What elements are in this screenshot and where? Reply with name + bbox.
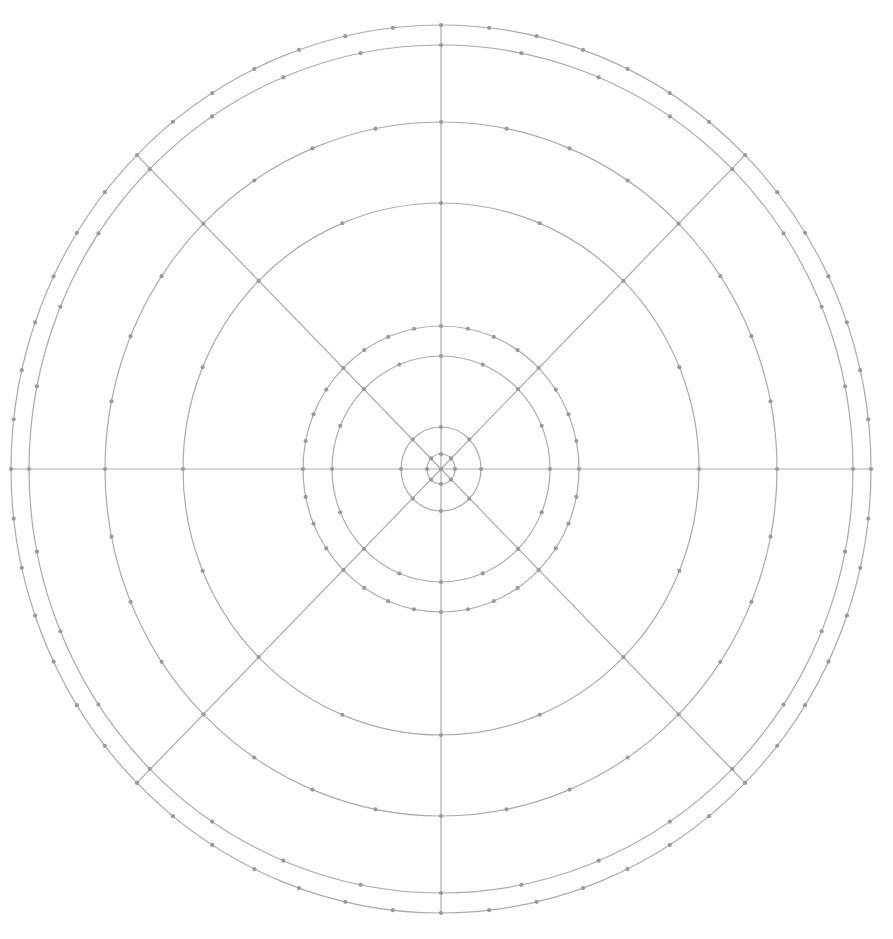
ring-dot [730,167,734,171]
ring-dot [538,221,542,225]
ring-dot [362,348,366,352]
ring-dot [540,424,544,428]
ring-dot [621,279,625,283]
ring-dot [340,221,344,225]
ring-dot [775,744,779,748]
ring-dot [304,439,308,443]
ring-dot [439,911,443,915]
ring-dot [466,327,470,331]
ring-dot [843,384,847,388]
ring-dot [201,222,205,226]
ring-dot [252,67,256,71]
ring-dot [492,599,496,603]
ring-dot [386,599,390,603]
ring-dot [439,425,443,429]
ring-dot [20,566,24,570]
ring-dot [707,120,711,124]
ring-dot [625,867,629,871]
ring-dot [412,607,416,611]
ring-dot [439,201,443,205]
ring-dot [697,467,701,471]
ring-dot [128,334,132,338]
ring-dot [304,495,308,499]
ring-dot [567,146,571,150]
ring-dot [425,467,429,471]
ring-dot [341,366,345,370]
ring-dot [439,23,443,27]
ring-dot [391,26,395,30]
ring-dot [171,814,175,818]
ring-dot [324,546,328,550]
ring-dot [768,399,772,403]
ring-dot [181,467,185,471]
ring-dot [359,51,363,55]
ring-dot [148,167,152,171]
ring-dot [210,114,214,118]
ring-dot [743,781,747,785]
ring-dot [504,807,508,811]
ring-dot [775,467,779,471]
ring-dot [310,787,314,791]
ring-dot [845,614,849,618]
ring-dot [803,703,807,707]
ring-dot [411,497,415,501]
ring-dot [467,437,471,441]
ring-dot [577,467,581,471]
ring-dot [96,231,100,235]
ring-dot [487,26,491,30]
ring-dot [574,495,578,499]
ring-dot [210,819,214,823]
ring-dot [453,467,457,471]
ring-dot [843,550,847,554]
ring-dot [281,859,285,863]
ring-dot [536,366,540,370]
ring-dot [330,467,334,471]
ring-dot [535,34,539,38]
ring-dot [33,614,37,618]
ring-dot [626,755,630,759]
ring-dot [135,153,139,157]
ring-dot [668,843,672,847]
ring-dot [103,744,107,748]
ring-dot [707,814,711,818]
ring-dot [625,67,629,71]
ring-dot [775,190,779,194]
ring-dot [75,231,79,235]
ring-dot [749,334,753,338]
ring-dot [581,48,585,52]
ring-dot [103,467,107,471]
ring-dot [621,655,625,659]
ring-dot [341,568,345,572]
ring-dot [676,222,680,226]
ring-dot [597,859,601,863]
ring-dot [373,807,377,811]
ring-dot [362,387,366,391]
ring-dot [554,546,558,550]
ring-dot [20,368,24,372]
ring-dot [256,279,260,283]
ring-dot [362,586,366,590]
ring-dot [866,517,870,521]
ring-dot [538,713,542,717]
radial-line [441,155,745,469]
ring-dot [548,467,552,471]
ring-dot [439,580,443,584]
ring-dot [412,327,416,331]
ring-dot [504,127,508,131]
ring-dot [516,547,520,551]
ring-dot [439,482,443,486]
ring-dot [677,365,681,369]
ring-dot [781,702,785,706]
ring-dot [677,569,681,573]
ring-dot [343,34,347,38]
ring-dot [399,467,403,471]
ring-dot [826,660,830,664]
ring-dot [201,569,205,573]
ring-dot [210,91,214,95]
radial-line [137,469,441,783]
ring-dot [439,324,443,328]
ring-dot [281,75,285,79]
ring-dot [397,571,401,575]
ring-dot [429,478,433,482]
ring-dot [391,908,395,912]
